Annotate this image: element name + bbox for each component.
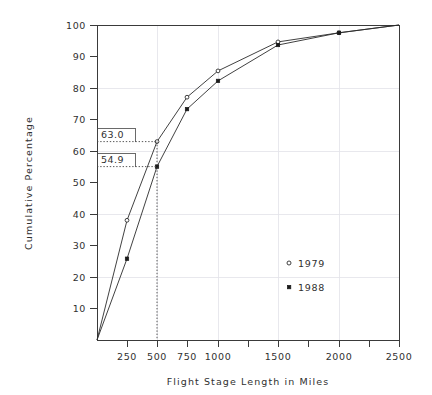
series-1979 — [97, 25, 399, 340]
y-tick-label-50: 50 — [73, 177, 86, 188]
data-point-1979-250 — [125, 218, 129, 222]
annotation-guides: 63.0 54.9 — [97, 128, 157, 340]
grid-lines — [97, 25, 399, 340]
x-tick-label-2000: 2000 — [326, 351, 353, 362]
x-tick-label-500: 500 — [147, 351, 167, 362]
y-tick-label-80: 80 — [73, 83, 86, 94]
y-axis-ticks — [90, 25, 97, 309]
x-tick-label-750: 750 — [177, 351, 197, 362]
legend-marker-1988-icon — [287, 285, 290, 288]
series-1988-line — [97, 25, 399, 340]
data-point-1988-250 — [125, 257, 128, 260]
data-point-1988-1500 — [276, 43, 279, 46]
series-1988 — [97, 25, 399, 340]
legend-label-1988: 1988 — [298, 282, 325, 293]
y-tick-label-40: 40 — [73, 209, 86, 220]
cumulative-percentage-chart: 100 90 80 70 60 50 40 30 20 10 250 500 — [0, 0, 432, 395]
data-point-1979-1000 — [216, 69, 220, 73]
y-tick-label-100: 100 — [66, 20, 86, 31]
y-axis-tick-labels: 100 90 80 70 60 50 40 30 20 10 — [66, 20, 86, 315]
annotation-label-54-9: 54.9 — [101, 154, 124, 165]
x-tick-label-1500: 1500 — [265, 351, 292, 362]
y-axis-title: Cumulative Percentage — [23, 116, 34, 250]
data-point-1979-750 — [185, 95, 189, 99]
x-tick-label-250: 250 — [117, 351, 137, 362]
legend-label-1979: 1979 — [298, 258, 325, 269]
x-axis-ticks — [127, 340, 399, 347]
x-tick-label-2500: 2500 — [386, 351, 413, 362]
legend: 1979 1988 — [287, 258, 325, 293]
y-tick-label-90: 90 — [73, 51, 86, 62]
y-tick-label-10: 10 — [73, 303, 86, 314]
data-point-1988-750 — [185, 107, 188, 110]
plot-frame — [97, 25, 399, 340]
x-tick-label-1000: 1000 — [205, 351, 232, 362]
vertical-gridlines — [157, 25, 339, 340]
series-1979-line — [97, 25, 399, 340]
y-tick-label-20: 20 — [73, 272, 86, 283]
y-tick-label-60: 60 — [73, 146, 86, 157]
legend-marker-1979-icon — [287, 261, 291, 265]
chart-canvas: 100 90 80 70 60 50 40 30 20 10 250 500 — [0, 0, 432, 395]
y-tick-label-30: 30 — [73, 240, 86, 251]
data-point-1988-1000 — [216, 79, 219, 82]
annotation-label-63: 63.0 — [101, 129, 124, 140]
x-axis-title: Flight Stage Length in Miles — [167, 376, 330, 387]
data-point-1988-2000 — [337, 31, 340, 34]
x-axis-tick-labels: 250 500 750 1000 1500 2000 2500 — [117, 351, 412, 362]
y-tick-label-70: 70 — [73, 114, 86, 125]
